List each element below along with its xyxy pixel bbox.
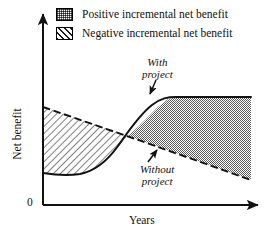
annotation-without-project-line1: Without [140, 164, 174, 176]
annotation-without-project-line2: project [140, 176, 174, 188]
origin-tick-label: 0 [27, 196, 33, 208]
x-axis-title: Years [129, 214, 155, 226]
with-project-leader-arrow [150, 80, 156, 94]
legend-label-negative: Negative incremental net benefit [82, 27, 232, 40]
legend-item-positive: Positive incremental net benefit [56, 8, 228, 21]
annotation-with-project-line1: With [142, 57, 173, 69]
legend-swatch-negative-icon [56, 27, 73, 40]
chart-figure: Positive incremental net benefit Negativ… [0, 0, 276, 240]
annotation-without-project: Without project [140, 164, 174, 187]
y-axis-title: Net benefit [11, 101, 23, 167]
legend-item-negative: Negative incremental net benefit [56, 27, 232, 40]
legend-label-positive: Positive incremental net benefit [82, 8, 228, 21]
annotation-with-project-line2: project [142, 69, 173, 81]
annotation-with-project: With project [142, 57, 173, 80]
without-project-leader-arrow [148, 150, 157, 162]
region-negative-incremental [43, 107, 128, 175]
legend-swatch-positive-icon [56, 8, 73, 21]
